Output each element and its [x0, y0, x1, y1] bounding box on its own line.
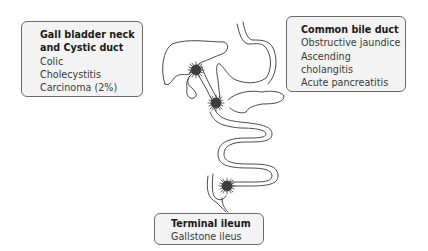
callout-item: Cholecystitis: [40, 68, 142, 81]
callout-title: Common bile duct: [301, 23, 405, 36]
gallbladder-callout: Gall bladder neck and Cystic duct Colic …: [21, 21, 143, 97]
gallstone-icon: [208, 95, 224, 111]
colon-outline: [207, 176, 226, 212]
callout-title: Terminal ileum: [171, 217, 263, 230]
callout-item: Gallstone ileus: [171, 230, 263, 243]
callout-item: Ascending cholangitis: [301, 50, 405, 77]
gallstone-icon: [219, 178, 235, 194]
callout-item: Carcinoma (2%): [40, 81, 142, 94]
callout-item: Acute pancreatitis: [301, 76, 405, 89]
callout-title: Gall bladder neck: [40, 28, 142, 41]
esophagus-inner: [243, 22, 276, 84]
appendix-outline: [222, 198, 228, 212]
callout-item: Obstructive jaundice: [301, 36, 405, 49]
stomach-outline: [217, 24, 271, 100]
gallbladder-outline: [187, 76, 196, 98]
callout-title: and Cystic duct: [40, 41, 142, 54]
small-bowel-outer: [214, 108, 278, 186]
pancreas-outline: [228, 91, 284, 113]
callout-item: Colic: [40, 55, 142, 68]
terminal-ileum-callout: Terminal ileum Gallstone ileus: [154, 213, 264, 245]
common-bile-duct-callout: Common bile duct Obstructive jaundice As…: [286, 16, 406, 92]
gallstone-icon: [188, 62, 204, 78]
